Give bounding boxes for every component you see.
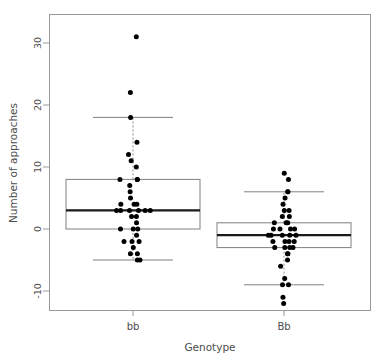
data-point <box>282 208 287 213</box>
data-point <box>282 171 287 176</box>
boxplot-figure: -100102030 bbBb Number of approaches Gen… <box>0 0 387 363</box>
data-point <box>127 183 132 188</box>
data-point <box>127 208 132 213</box>
data-point <box>122 239 127 244</box>
data-point <box>272 220 277 225</box>
data-point <box>277 227 282 232</box>
data-point <box>285 258 290 263</box>
data-point <box>128 115 133 120</box>
data-point <box>134 202 139 207</box>
data-point <box>118 227 123 232</box>
data-point <box>134 220 139 225</box>
data-point <box>287 239 292 244</box>
y-tick-label: 0 <box>32 226 43 232</box>
data-point <box>129 158 134 163</box>
data-point <box>294 233 299 238</box>
data-point <box>271 227 276 232</box>
y-axis-title: Number of approaches <box>7 103 19 223</box>
data-point <box>137 258 142 263</box>
data-point <box>285 251 290 256</box>
data-point <box>280 295 285 300</box>
data-point <box>135 227 140 232</box>
data-point <box>128 196 133 201</box>
data-point <box>290 245 295 250</box>
data-point <box>134 140 139 145</box>
data-point <box>283 196 288 201</box>
data-point <box>272 245 277 250</box>
data-point <box>286 282 291 287</box>
data-point <box>286 177 291 182</box>
figure-background <box>0 0 387 363</box>
y-tick-label: -10 <box>32 283 43 299</box>
data-point <box>128 90 133 95</box>
data-point <box>287 208 292 213</box>
data-point <box>136 208 141 213</box>
x-tick-label-bb: bb <box>127 321 140 332</box>
y-tick-label: 30 <box>32 37 43 49</box>
data-point <box>280 282 285 287</box>
y-tick-label: 20 <box>32 99 43 111</box>
data-point <box>281 202 286 207</box>
data-point <box>282 276 287 281</box>
data-point <box>285 189 290 194</box>
data-point <box>135 177 140 182</box>
data-point <box>128 189 133 194</box>
data-point <box>128 251 133 256</box>
data-point <box>287 233 292 238</box>
x-axis-title: Genotype <box>184 341 235 353</box>
data-point <box>270 239 275 244</box>
data-point <box>134 34 139 39</box>
data-point <box>134 165 139 170</box>
data-point <box>129 214 134 219</box>
data-point <box>292 227 297 232</box>
data-point <box>282 245 287 250</box>
data-point <box>148 208 153 213</box>
data-point <box>130 239 135 244</box>
data-point <box>137 239 142 244</box>
x-tick-label-Bb: Bb <box>277 321 290 332</box>
data-point <box>117 177 122 182</box>
data-point <box>280 214 285 219</box>
data-point <box>285 220 290 225</box>
data-point <box>131 245 136 250</box>
data-point <box>134 214 139 219</box>
data-point <box>278 264 283 269</box>
data-point <box>143 208 148 213</box>
data-point <box>135 251 140 256</box>
y-tick-label: 10 <box>32 161 43 173</box>
data-point <box>280 233 285 238</box>
data-point <box>118 202 123 207</box>
data-point <box>126 152 131 157</box>
data-point <box>292 239 297 244</box>
data-point <box>287 214 292 219</box>
data-point <box>114 208 119 213</box>
data-point <box>134 233 139 238</box>
data-point <box>131 227 136 232</box>
data-point <box>266 233 271 238</box>
boxplot-svg: -100102030 bbBb Number of approaches Gen… <box>0 0 387 363</box>
data-point <box>281 301 286 306</box>
